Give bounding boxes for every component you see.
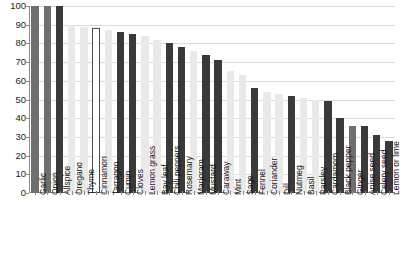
x-axis-tick-label: Garlic: [39, 173, 48, 195]
x-axis-tick-label: Basil: [307, 177, 316, 195]
x-axis-tick-label: Rosemary: [185, 156, 194, 195]
x-axis-tick-label: Fennel: [258, 169, 267, 195]
x-axis-tick-label: Cumin: [124, 170, 133, 195]
x-axis-tick-mark: [328, 191, 329, 195]
x-axis-tick-mark: [279, 191, 280, 195]
x-axis-tick-label: Oregano: [75, 162, 84, 195]
x-axis-tick-label: Allspice: [63, 166, 72, 195]
x-axis-tick-label: Anise seed: [368, 153, 377, 195]
x-axis-tick-mark: [377, 191, 378, 195]
bar: [31, 6, 39, 193]
x-axis-tick-label: Caraway: [222, 161, 231, 195]
y-axis-tick-mark: [25, 193, 29, 194]
x-axis-tick-label: Tarragon: [112, 161, 121, 195]
x-axis-tick-mark: [267, 191, 268, 195]
x-axis-tick-label: Nutmeg: [295, 165, 304, 195]
x-axis-tick-mark: [35, 191, 36, 195]
x-axis-tick-label: Cinnamon: [100, 156, 109, 195]
x-axis-tick-mark: [340, 191, 341, 195]
x-axis-tick-mark: [255, 191, 256, 195]
bar: [44, 6, 52, 193]
x-axis-tick-label: Ginger: [356, 169, 365, 195]
x-axis-tick-label: Black pepper: [344, 145, 353, 195]
x-axis: GarlicOnionAllspiceOreganoThymeCinnamonT…: [29, 195, 395, 260]
x-axis-tick-mark: [145, 191, 146, 195]
y-axis-tick-label: 100: [10, 1, 26, 11]
x-axis-tick-mark: [365, 191, 366, 195]
x-axis-tick-label: Onion: [51, 172, 60, 195]
x-axis-tick-mark: [218, 191, 219, 195]
x-axis-tick-label: Cardamom: [331, 153, 340, 195]
x-axis-tick-mark: [206, 191, 207, 195]
x-axis-tick-label: Marjoram: [197, 159, 206, 195]
x-axis-tick-mark: [96, 191, 97, 195]
x-axis-tick-mark: [133, 191, 134, 195]
x-axis-tick-label: Lemon grass: [148, 146, 157, 195]
x-axis-tick-mark: [352, 191, 353, 195]
x-axis-tick-label: Dill: [283, 183, 292, 195]
x-axis-tick-label: Lemon or lime: [392, 141, 401, 195]
x-axis-tick-label: Coriander: [270, 158, 279, 195]
x-axis-tick-mark: [84, 191, 85, 195]
x-axis-tick-label: Parsley: [319, 167, 328, 195]
x-axis-tick-mark: [182, 191, 183, 195]
x-axis-tick-label: Bay leaf: [161, 164, 170, 195]
x-axis-tick-mark: [108, 191, 109, 195]
x-axis-tick-label: Thyme: [87, 169, 96, 195]
x-axis-tick-mark: [47, 191, 48, 195]
x-axis-tick-mark: [291, 191, 292, 195]
y-axis: 0102030405060708090100: [0, 0, 29, 199]
x-axis-tick-label: Mint: [234, 179, 243, 195]
x-axis-tick-label: Mustard: [209, 164, 218, 195]
x-axis-tick-mark: [304, 191, 305, 195]
x-axis-tick-mark: [121, 191, 122, 195]
x-axis-tick-mark: [72, 191, 73, 195]
x-axis-tick-mark: [389, 191, 390, 195]
x-axis-tick-label: Sage: [246, 175, 255, 195]
x-axis-tick-mark: [194, 191, 195, 195]
x-axis-tick-mark: [169, 191, 170, 195]
x-axis-tick-mark: [316, 191, 317, 195]
x-axis-tick-mark: [60, 191, 61, 195]
x-axis-tick-mark: [230, 191, 231, 195]
x-axis-tick-label: Chili peppers: [173, 145, 182, 195]
x-axis-tick-mark: [157, 191, 158, 195]
x-axis-tick-label: Cloves: [136, 169, 145, 195]
x-axis-tick-mark: [243, 191, 244, 195]
x-axis-tick-label: Celery seed: [380, 150, 389, 195]
